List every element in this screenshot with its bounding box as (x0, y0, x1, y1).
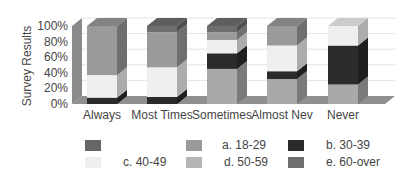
legend-swatch (85, 157, 101, 168)
bar-stack (147, 18, 187, 104)
legend-label: a. 18-29 (222, 138, 266, 152)
y-tick-label: 60% (44, 50, 68, 64)
bar-segment-front (207, 53, 237, 69)
bar-segment-front (207, 69, 237, 104)
bar-stack (207, 18, 247, 104)
legend-label: c. 40-49 (123, 155, 166, 169)
bar-segment-front (328, 85, 358, 105)
bar-segment-side (358, 38, 368, 85)
x-category-label: Never (327, 108, 359, 122)
bar-segment-front (147, 26, 177, 32)
bar-segment-front (147, 97, 177, 104)
legend-swatch (186, 140, 202, 151)
bar-segment-front (87, 75, 117, 98)
bar-segment-front (147, 67, 177, 97)
bar-segment-front (207, 32, 237, 40)
bar-segment-front (207, 26, 237, 32)
bar-stack (328, 18, 368, 104)
bar-segment-front (328, 26, 358, 46)
bar-segment-front (147, 32, 177, 67)
y-tick-label: 80% (44, 35, 68, 49)
x-category-label: Most Times (131, 108, 192, 122)
legend-label: e. 60-over (326, 155, 380, 169)
legend-swatch (186, 157, 202, 168)
legend-label: d. 50-59 (224, 155, 268, 169)
legend-swatch (85, 140, 101, 151)
y-tick-label: 0% (51, 97, 69, 111)
y-axis-ticks: 0%20%40%60%80%100% (37, 19, 68, 111)
bar-segment-front (87, 98, 117, 104)
bar-segment-front (87, 26, 117, 75)
side-wall (72, 18, 82, 104)
x-category-label: Always (83, 108, 121, 122)
bar-segment-front (267, 46, 297, 72)
y-axis-label: Survey Results (20, 26, 34, 107)
bar-segment-side (117, 18, 127, 75)
bar-segment-front (328, 46, 358, 85)
bar-segment-front (267, 26, 297, 46)
bar-stack (267, 18, 307, 104)
legend-label: b. 30-39 (326, 138, 370, 152)
bar-stack (87, 18, 127, 104)
x-category-label: Sometimes (192, 108, 252, 122)
y-tick-label: 40% (44, 66, 68, 80)
legend-swatch (288, 157, 304, 168)
bar-segment-front (207, 40, 237, 53)
bar-segment-front (267, 79, 297, 104)
y-tick-label: 20% (44, 81, 68, 95)
bars (87, 18, 368, 104)
x-category-label: Almost Nev (251, 108, 312, 122)
bar-segment-front (267, 71, 297, 79)
legend-swatch (288, 140, 304, 151)
x-axis-categories: AlwaysMost TimesSometimesAlmost NevNever (83, 108, 359, 122)
stacked-3d-bar-chart: 0%20%40%60%80%100% Survey Results Always… (0, 0, 410, 132)
legend: a. 18-29b. 30-39c. 40-49d. 50-59e. 60-ov… (0, 132, 410, 182)
y-tick-label: 100% (37, 19, 68, 33)
